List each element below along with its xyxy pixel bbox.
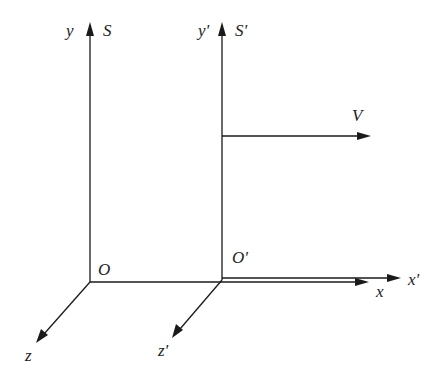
velocity-arrowhead-icon xyxy=(357,132,371,140)
frame-s-prime-label: S' xyxy=(235,21,248,40)
z-axis-label: z xyxy=(24,346,32,365)
frame-s-prime: y' S' O' x' z' xyxy=(157,21,420,360)
frames-diagram: y S O x z y' S' O' x' z' V xyxy=(0,0,443,375)
z-prime-axis-label: z' xyxy=(157,341,169,360)
x-axis-arrowhead-icon xyxy=(355,278,369,286)
z-axis xyxy=(44,282,90,334)
x-axis-label: x xyxy=(375,282,384,301)
velocity-vector: V xyxy=(222,106,371,140)
origin-o-label: O xyxy=(98,260,110,279)
frame-s: y S O x z xyxy=(24,21,384,365)
origin-o-prime-label: O' xyxy=(232,248,248,267)
frame-s-label: S xyxy=(103,21,112,40)
y-prime-axis-label: y' xyxy=(196,21,210,40)
z-prime-axis-arrowhead-icon xyxy=(172,324,183,338)
y-prime-axis-arrowhead-icon xyxy=(218,22,226,36)
x-prime-axis-arrowhead-icon xyxy=(387,274,401,282)
y-axis-label: y xyxy=(64,21,74,40)
y-axis-arrowhead-icon xyxy=(86,22,94,36)
z-prime-axis xyxy=(180,280,222,329)
velocity-label: V xyxy=(352,106,365,125)
x-prime-axis-label: x' xyxy=(407,270,420,289)
